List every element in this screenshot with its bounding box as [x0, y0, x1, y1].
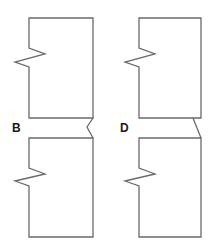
panel-d-bottom-piece: [125, 138, 201, 237]
panel-b-bottom-piece: [15, 138, 93, 237]
panel-d-top-piece: [125, 18, 201, 118]
panel-b-label: B: [12, 122, 21, 134]
panel-d-connector-diagonal: [193, 118, 201, 138]
joint-diagram: [0, 0, 216, 252]
panel-b-connector-zigzag: [87, 118, 93, 138]
panel-b-top-piece: [15, 18, 93, 118]
panel-d: [125, 18, 201, 237]
panel-b: [15, 18, 93, 237]
panel-d-label: D: [120, 122, 129, 134]
